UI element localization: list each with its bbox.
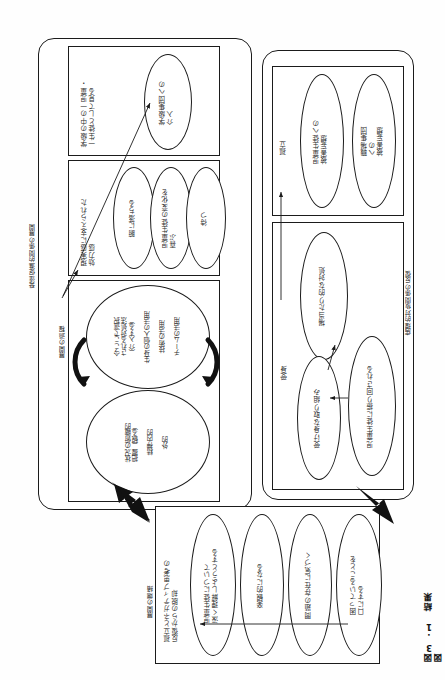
ellipse-understand-deeply: 児童生徒について 深く理解しようとする (190, 514, 236, 656)
ellipse-voice-difficulty-text: 困っていることを 口にする (351, 555, 366, 615)
ellipse-wait-text: 待つ (202, 211, 210, 226)
label-isolation: 孤立 (280, 125, 288, 155)
label-class-view: 学級の中の一児童・ 一生徒として見る (82, 55, 98, 147)
ellipse-persecution-workplace: 職場集団 への 被害妄想 (352, 74, 396, 208)
ellipse-tossed-by-students: 児童生徒に振り回される (348, 336, 396, 476)
ellipse-class-intervention: 学級集団への 介入 (144, 54, 192, 150)
ellipse-notice-problem: 問題の存在に気づく (288, 514, 332, 656)
figure-canvas: 発達促進的関係の展開 学級の中の一児童・ 一生徒として見る 学級集団への 介入 … (0, 0, 445, 680)
label-passive: 受身 (281, 350, 289, 380)
ellipse-understand-deeply-text: 児童生徒について 深く理解しようとする (205, 548, 220, 623)
ellipse-fall-into-place-text: 腑に落ちる (130, 199, 138, 237)
label-development-group: 発達促進的関係の展開 (28, 168, 35, 288)
ellipse-ad-hoc-response-text: 場当たり的な対処 (320, 266, 328, 326)
label-pathology-group: 病理的対象関係の反復 (404, 225, 411, 335)
label-efficacy: 現実感に支えられた 効力感 (82, 170, 98, 266)
label-onset: 孤立とネガティブ思考の 反復からの脱却 (165, 530, 181, 642)
ellipse-ad-hoc-response: 場当たり的な対処 (300, 232, 348, 360)
ellipse-notice-problem-text: 問題の存在に気づく (306, 551, 314, 619)
ellipse-fall-into-place: 腑に落ちる (113, 167, 155, 269)
ellipse-become-optimistic-text: 楽観的になる (258, 563, 266, 608)
ellipse-persecution-students: 児童生徒への 被害妄想 (300, 74, 344, 208)
ellipse-voice-difficulty: 困っていることを 口にする (336, 514, 382, 656)
ellipse-passive-engagement: 受け身な取り組み (297, 356, 341, 480)
ellipse-process-intervene-text: 今ここで選択 される対処法 （介入する） 生身の個人の活用 技術の活用 チームの… (114, 311, 182, 363)
ellipse-rejoice-change-text: 児童生徒の変化を 喜ぶ (163, 188, 179, 248)
ellipse-tossed-by-students-text: 児童生徒に振り回される (368, 365, 376, 448)
label-process: 展開の過程 (58, 288, 65, 358)
label-onset-group: 展開の端緒 (146, 548, 153, 618)
figure-caption: 図3.1 結果図 (424, 586, 444, 662)
ellipse-passive-engagement-text: 受け身な取り組み (315, 388, 323, 448)
ellipse-class-intervention-text: 学級集団への 介入 (160, 80, 176, 125)
ellipse-process-intervene: 今ここで選択 される対処法 （介入する） 生身の個人の活用 技術の活用 チームの… (86, 285, 210, 389)
ellipse-wait: 待つ (186, 167, 226, 269)
ellipse-persecution-students-text: 児童生徒への 被害妄想 (314, 119, 330, 164)
ellipse-process-observe: 状況の俯瞰的 把握（観る） 精神内的 外的 (86, 390, 210, 494)
ellipse-persecution-workplace-text: 職場集団 への 被害妄想 (362, 126, 385, 156)
ellipse-become-optimistic: 楽観的になる (240, 514, 284, 656)
ellipse-process-observe-text: 状況の俯瞰的 把握（観る） 精神内的 外的 (125, 423, 170, 462)
